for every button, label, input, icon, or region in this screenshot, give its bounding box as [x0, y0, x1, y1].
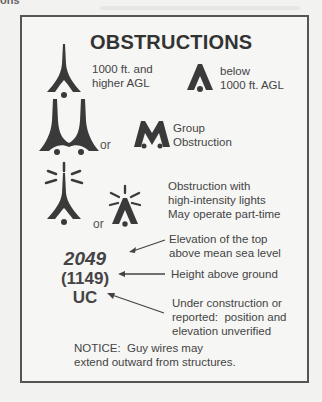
- background-ghost-line: [100, 6, 300, 10]
- tall-lighted-obstruction-icon: [44, 161, 84, 227]
- short-lighted-obstruction-icon: [108, 184, 142, 228]
- short-obstruction-label: below 1000 ft. AGL: [220, 64, 284, 92]
- group-obstruction-label: Group Obstruction: [173, 121, 232, 149]
- short-obstruction-icon: [187, 64, 213, 94]
- group-or-label: or: [100, 138, 111, 152]
- uc-arrow-icon: [106, 291, 166, 315]
- lighted-obstruction-label: Obstruction with high-intensity lights M…: [168, 179, 281, 221]
- msl-elevation-label: Elevation of the top above mean sea leve…: [169, 232, 281, 260]
- agl-height-label: Height above ground: [171, 267, 278, 281]
- background-fragment-text: ons: [0, 0, 20, 6]
- under-construction-label: Under construction or reported: position…: [172, 296, 286, 338]
- msl-arrow-icon: [127, 238, 167, 258]
- agl-height-value: (1149): [55, 269, 115, 289]
- agl-arrow-icon: [117, 268, 167, 280]
- tall-obstruction-icon: [44, 44, 84, 100]
- tall-group-obstruction-icon: [38, 99, 100, 159]
- short-group-obstruction-icon: [134, 121, 170, 151]
- tall-obstruction-label: 1000 ft. and higher AGL: [92, 62, 153, 90]
- msl-elevation-value: 2049: [55, 248, 115, 270]
- guy-wire-notice: NOTICE: Guy wires may extend outward fro…: [74, 341, 236, 369]
- legend-title: OBSTRUCTIONS: [90, 31, 252, 54]
- lighted-or-label: or: [93, 217, 104, 231]
